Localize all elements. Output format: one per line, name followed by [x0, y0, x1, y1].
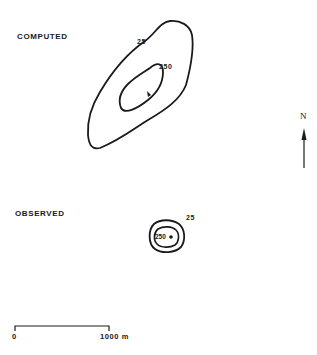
computed-label-25: 25 — [137, 38, 146, 45]
observed-label-250: 250 — [155, 233, 166, 240]
scale-end-label: 1000 m — [100, 332, 129, 341]
observed-title: OBSERVED — [15, 209, 65, 218]
contour-map — [0, 0, 317, 355]
computed-label-250: 250 — [159, 63, 172, 70]
north-label: N — [300, 111, 307, 121]
observed-label-25: 25 — [186, 214, 195, 221]
computed-title: COMPUTED — [17, 32, 68, 41]
computed-source-marker — [147, 91, 151, 97]
north-arrow-head — [302, 128, 307, 140]
scale-start-label: 0 — [12, 332, 17, 341]
observed-source-marker — [169, 235, 173, 239]
scale-bar — [15, 326, 109, 331]
computed-contour-250 — [120, 64, 163, 111]
